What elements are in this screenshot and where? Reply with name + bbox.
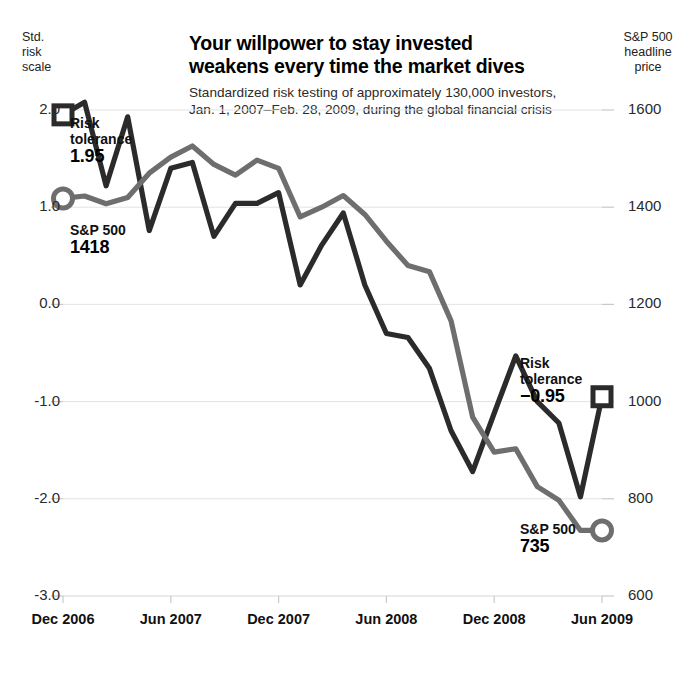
right-axis-tick-label: 600	[628, 586, 653, 603]
left-axis-tick-label: 0.0	[14, 294, 60, 311]
right-axis-tick-label: 800	[628, 489, 653, 506]
right-axis-tick-label: 1600	[628, 100, 661, 117]
series-line-risk-tolerance	[63, 102, 602, 497]
annotation-label: Risk tolerance	[70, 115, 132, 147]
left-axis-tick-label: 2.0	[14, 100, 60, 117]
right-axis-tick-label: 1400	[628, 197, 661, 214]
x-axis-line	[63, 596, 602, 603]
annotation-label: Risk tolerance	[520, 355, 582, 387]
x-axis-tick-label: Dec 2008	[463, 611, 526, 627]
endpoint-marker-circle	[593, 521, 612, 540]
chart-figure: Std. risk scale S&P 500 headline price Y…	[0, 0, 696, 674]
x-axis-tick-label: Jun 2008	[355, 611, 417, 627]
annotation-value: 1418	[70, 239, 126, 255]
x-axis-tick-label: Jun 2009	[571, 611, 633, 627]
right-axis-tick-label: 1200	[628, 294, 661, 311]
left-axis-tick-label: -2.0	[14, 489, 60, 506]
endpoint-marker-square	[593, 388, 611, 406]
x-axis-tick-label: Dec 2006	[32, 611, 95, 627]
left-axis-tick-label: -1.0	[14, 392, 60, 409]
right-axis-tick-label: 1000	[628, 392, 661, 409]
series-layer	[63, 102, 602, 530]
left-axis-tick-label: 1.0	[14, 197, 60, 214]
annotation-value: −0.95	[520, 388, 582, 404]
x-axis-tick-label: Dec 2007	[247, 611, 310, 627]
x-axis-tick-label: Jun 2007	[140, 611, 202, 627]
annotation-label: S&P 500	[520, 521, 576, 537]
annotation-risk-tolerance-start: Risk tolerance 1.95	[70, 115, 132, 164]
annotation-value: 735	[520, 538, 576, 554]
annotation-label: S&P 500	[70, 222, 126, 238]
left-axis-tick-label: -3.0	[14, 586, 60, 603]
annotation-sp500-end: S&P 500 735	[520, 521, 576, 554]
annotation-sp500-start: S&P 500 1418	[70, 222, 126, 255]
annotation-value: 1.95	[70, 148, 132, 164]
plot-area	[0, 0, 696, 674]
annotation-risk-tolerance-end: Risk tolerance −0.95	[520, 355, 582, 404]
